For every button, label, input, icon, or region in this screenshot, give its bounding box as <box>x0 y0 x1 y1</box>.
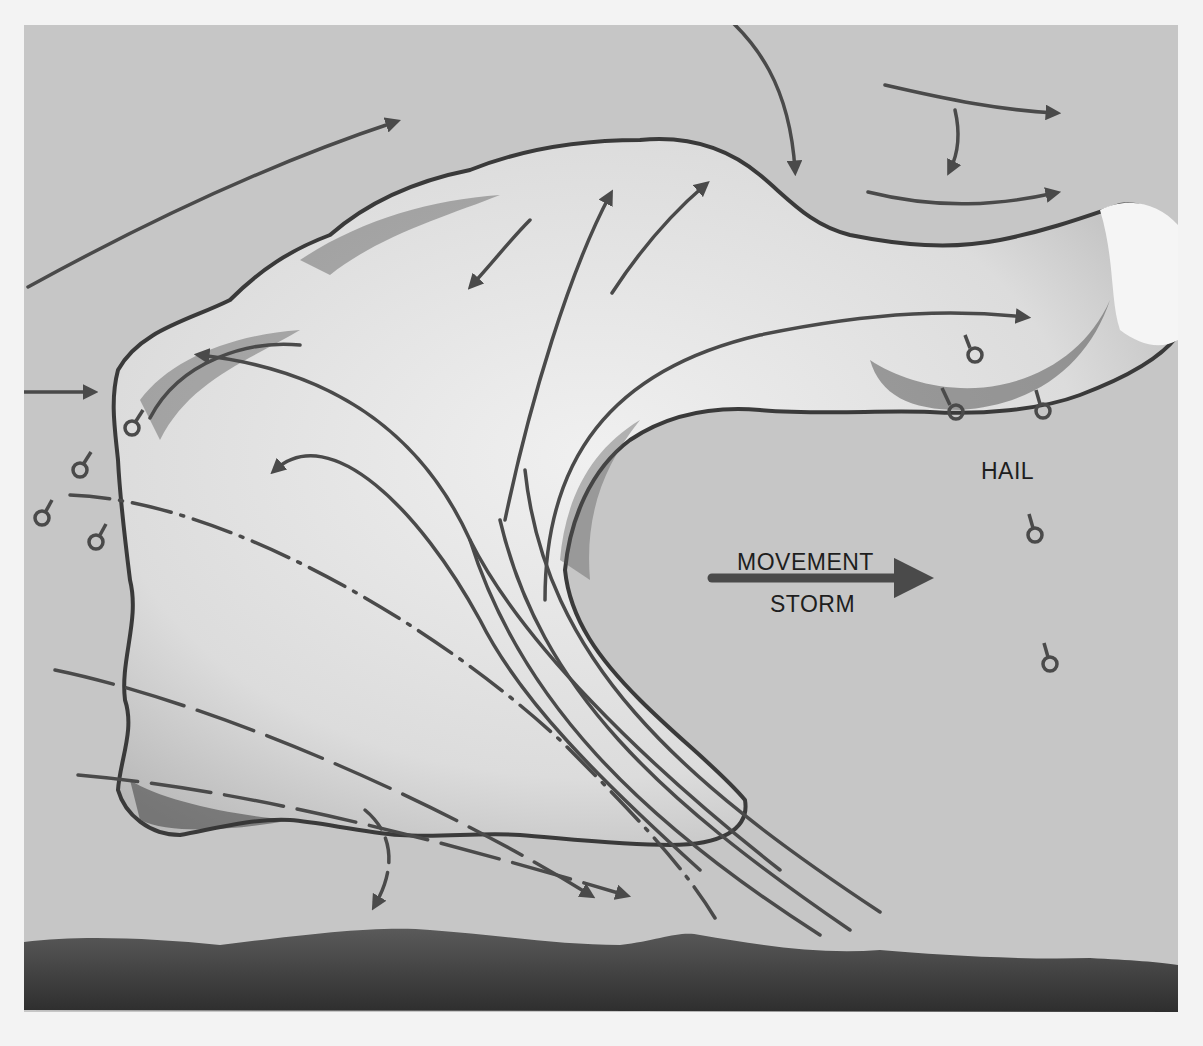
hail-label: HAIL <box>981 458 1034 485</box>
storm-label: STORM <box>770 591 855 618</box>
outflow-arrow-top <box>708 25 795 170</box>
movement-label: MOVEMENT <box>737 549 874 576</box>
hail-icon <box>35 500 52 525</box>
hail-icon <box>89 524 106 549</box>
outflow-arrow-right <box>868 192 1055 204</box>
hail-icon <box>73 452 91 477</box>
diagram-panel: HAIL MOVEMENT STORM <box>24 25 1178 1012</box>
outflow-arrow-top-right <box>885 85 1055 113</box>
outflow-branch-arrow <box>950 110 958 170</box>
ground-hills <box>24 929 1178 1012</box>
hail-icon <box>1043 643 1057 671</box>
hail-icon <box>1028 514 1042 542</box>
storm-illustration <box>24 25 1178 1012</box>
